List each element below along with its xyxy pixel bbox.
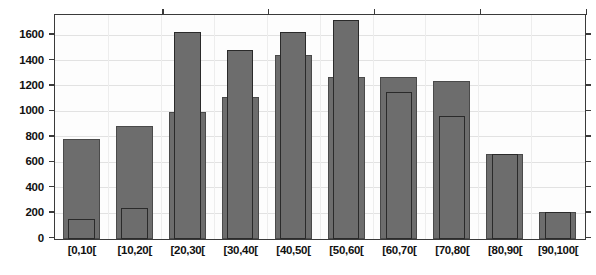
gridline-vertical [108,15,109,239]
y-tick-mark [49,59,55,60]
bar-overlay [545,212,571,239]
y-tick-mark [49,237,55,238]
y-axis-tick-label: 1600 [0,28,44,40]
y-tick-mark-right [585,237,591,238]
y-tick-mark [49,186,55,187]
bar-overlay [174,32,200,239]
bar-overlay [333,20,359,239]
x-tick-mark-top [268,9,269,15]
y-axis-tick-label: 600 [0,155,44,167]
y-axis-tick-label: 200 [0,206,44,218]
gridline-vertical [214,15,215,239]
y-axis-tick-label: 1000 [0,104,44,116]
y-tick-mark [49,84,55,85]
y-tick-mark [49,135,55,136]
gridline-vertical [478,15,479,239]
gridline-vertical [531,15,532,239]
bar-overlay [68,219,94,239]
x-tick-mark-top [480,9,481,15]
y-tick-mark [49,161,55,162]
plot-area [54,14,586,240]
bar-overlay [280,32,306,239]
y-tick-mark-right [585,59,591,60]
gridline-vertical [373,15,374,239]
y-axis-tick-label: 800 [0,130,44,142]
x-tick-mark-top [374,9,375,15]
y-tick-mark [49,110,55,111]
y-tick-mark-right [585,33,591,34]
y-tick-mark-right [585,161,591,162]
y-tick-mark [49,33,55,34]
x-tick-mark-top [162,9,163,15]
y-axis-tick-label: 0 [0,232,44,244]
gridline-vertical [425,15,426,239]
y-tick-mark-right [585,135,591,136]
bar-overlay [121,208,147,239]
plot-inner [55,15,585,239]
y-tick-mark-right [585,211,591,212]
bar-overlay [439,116,465,239]
y-axis-tick-label: 1200 [0,79,44,91]
y-tick-mark-right [585,110,591,111]
y-tick-mark [49,211,55,212]
histogram-chart: 02004006008001000120014001600 [0,10[[10,… [0,0,596,275]
y-axis-tick-label: 1400 [0,54,44,66]
bar-overlay [386,92,412,239]
y-axis-tick-label: 400 [0,181,44,193]
x-axis-tick-label: [90,100[ [524,244,592,256]
gridline-vertical [320,15,321,239]
bar-overlay [227,50,253,239]
gridline-vertical [161,15,162,239]
bar-overlay [492,154,518,239]
x-tick-mark-top [586,9,587,15]
gridline-vertical [267,15,268,239]
y-tick-mark-right [585,84,591,85]
y-tick-mark-right [585,186,591,187]
